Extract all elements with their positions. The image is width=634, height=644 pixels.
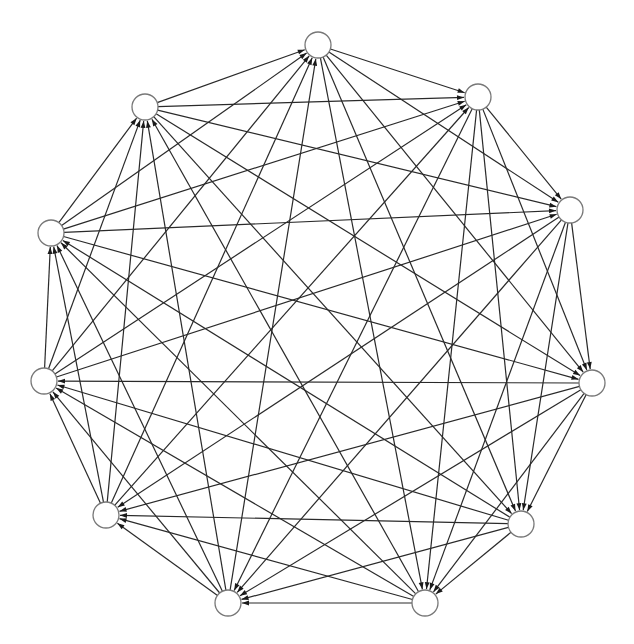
nodes-layer <box>31 32 605 616</box>
edge-6-to-8 <box>53 392 220 593</box>
node-6 <box>215 590 241 616</box>
node-5 <box>412 590 438 616</box>
edge-10-to-1 <box>158 97 464 106</box>
edge-3-to-4 <box>527 395 586 512</box>
edge-6-to-7 <box>117 523 217 595</box>
edge-7-to-1 <box>115 108 469 506</box>
edge-0-to-1 <box>330 49 464 93</box>
node-10 <box>132 94 158 120</box>
node-8 <box>31 368 57 394</box>
edge-7-to-0 <box>111 58 312 503</box>
node-0 <box>305 32 331 58</box>
edge-2-to-5 <box>430 222 566 590</box>
edge-3-to-8 <box>58 381 579 383</box>
edge-1-to-3 <box>483 109 587 370</box>
edge-2-to-7 <box>118 217 559 507</box>
edge-4-to-9 <box>63 240 510 517</box>
edge-3-to-5 <box>434 393 585 591</box>
edge-9-to-3 <box>64 237 579 380</box>
edge-10-to-0 <box>157 50 305 103</box>
tournament-graph <box>0 0 634 644</box>
edge-10-to-2 <box>158 110 557 207</box>
node-2 <box>557 197 583 223</box>
edge-1-to-2 <box>486 107 561 199</box>
edge-0-to-5 <box>320 58 422 590</box>
edge-7-to-9 <box>54 247 104 503</box>
edge-3-to-7 <box>120 386 580 511</box>
edge-10-to-4 <box>154 117 512 514</box>
edge-7-to-10 <box>107 121 144 502</box>
node-1 <box>465 84 491 110</box>
node-4 <box>508 511 534 537</box>
edge-3-to-6 <box>240 390 581 596</box>
edge-5-to-7 <box>120 519 413 600</box>
edge-0-to-4 <box>323 57 515 511</box>
edge-2-to-3 <box>572 223 591 369</box>
edge-9-to-10 <box>59 118 137 222</box>
edge-9-to-2 <box>64 211 556 233</box>
edge-9-to-0 <box>62 53 307 225</box>
node-7 <box>93 502 119 528</box>
edge-1-to-4 <box>479 110 519 510</box>
edge-4-to-7 <box>120 515 508 523</box>
edge-5-to-10 <box>152 119 419 592</box>
edge-8-to-9 <box>45 247 51 368</box>
node-3 <box>579 370 605 396</box>
node-9 <box>38 220 64 246</box>
edge-5-to-8 <box>56 388 414 597</box>
edge-2-to-6 <box>237 220 561 593</box>
